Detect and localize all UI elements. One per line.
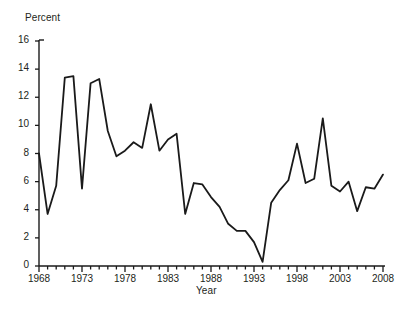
y-axis-tick-label: 2 bbox=[13, 231, 29, 242]
x-axis-tick-label: 1988 bbox=[194, 273, 228, 284]
data-series-line bbox=[39, 76, 383, 262]
x-axis-tick-label: 1968 bbox=[22, 273, 56, 284]
plot-area bbox=[0, 0, 409, 311]
y-axis-tick-label: 4 bbox=[13, 203, 29, 214]
y-axis-tick-label: 0 bbox=[13, 259, 29, 270]
y-axis-tick-label: 8 bbox=[13, 147, 29, 158]
y-axis-tick-label: 10 bbox=[13, 118, 29, 129]
y-axis-tick-label: 14 bbox=[13, 62, 29, 73]
y-axis-tick-label: 6 bbox=[13, 175, 29, 186]
x-axis-tick-label: 1998 bbox=[280, 273, 314, 284]
x-axis-tick-label: 1978 bbox=[108, 273, 142, 284]
y-axis-tick-label: 12 bbox=[13, 90, 29, 101]
x-axis-tick-label: 2003 bbox=[323, 273, 357, 284]
y-axis-tick-label: 16 bbox=[13, 34, 29, 45]
x-axis-tick-label: 1993 bbox=[237, 273, 271, 284]
x-axis-tick-label: 2008 bbox=[366, 273, 400, 284]
x-axis-tick-label: 1973 bbox=[65, 273, 99, 284]
x-axis-tick-label: 1983 bbox=[151, 273, 185, 284]
line-chart: Percent Year 0246810121416 1968197319781… bbox=[0, 0, 409, 311]
